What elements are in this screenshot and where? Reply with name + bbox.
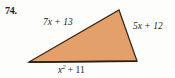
label-bottom-constant: 11 <box>76 65 85 75</box>
label-bottom-side: x2 + 11 <box>58 62 85 75</box>
label-right-side: 5x + 12 <box>133 21 163 31</box>
triangle-figure: 74. 7x + 13 5x + 12 x2 + 11 <box>0 0 175 78</box>
triangle-shape <box>0 0 175 78</box>
label-top-left-side: 7x + 13 <box>43 17 73 27</box>
